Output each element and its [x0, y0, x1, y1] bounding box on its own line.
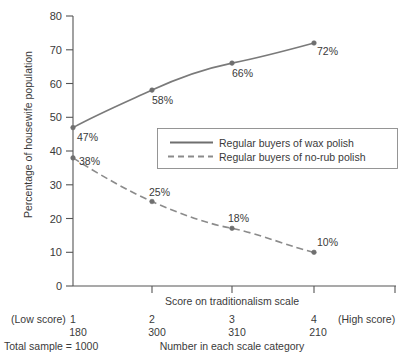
data-point-norub-3: [230, 226, 235, 231]
x-category-4: 4: [311, 313, 317, 325]
x-axis-title: Score on traditionalism scale: [165, 295, 299, 307]
y-tick-label-70: 70: [50, 44, 62, 56]
y-tick-label-80: 80: [50, 10, 62, 22]
category-count-1: 180: [69, 326, 87, 338]
category-count-2: 300: [148, 326, 166, 338]
series-no-rub-polish-line: [73, 158, 314, 252]
legend-label-no-rub-polish: Regular buyers of no-rub polish: [219, 151, 366, 163]
data-label-wax-2: 58%: [152, 94, 173, 106]
counts-caption: Number in each scale category: [160, 340, 305, 352]
x-category-2: 2: [149, 313, 155, 325]
series-wax-polish-line: [73, 43, 314, 128]
y-axis-ticks: [66, 16, 73, 286]
line-chart: 80 70 60 50 40 30 20 10 0 Percentage of …: [0, 0, 408, 353]
y-tick-label-60: 60: [50, 78, 62, 90]
data-label-wax-3: 66%: [232, 67, 253, 79]
legend-label-wax-polish: Regular buyers of wax polish: [219, 137, 354, 149]
category-count-3: 310: [228, 326, 246, 338]
data-label-wax-4: 72%: [317, 45, 338, 57]
x-category-3: 3: [229, 313, 235, 325]
data-label-norub-1: 38%: [79, 155, 100, 167]
data-label-wax-1: 47%: [77, 131, 98, 143]
chart-legend: Regular buyers of wax polish Regular buy…: [158, 129, 398, 169]
data-point-wax-3: [230, 61, 235, 66]
total-sample-label: Total sample = 1000: [4, 340, 98, 352]
chart-container: 80 70 60 50 40 30 20 10 0 Percentage of …: [0, 0, 408, 353]
y-tick-label-50: 50: [50, 111, 62, 123]
data-point-norub-1: [71, 156, 76, 161]
low-score-label: (Low score): [11, 313, 66, 325]
data-point-wax-2: [150, 88, 155, 93]
y-tick-label-30: 30: [50, 179, 62, 191]
data-point-norub-2: [150, 199, 155, 204]
y-tick-label-10: 10: [50, 246, 62, 258]
legend-box: [158, 129, 398, 169]
data-label-norub-2: 25%: [149, 186, 170, 198]
data-label-norub-4: 10%: [317, 236, 338, 248]
data-point-wax-4: [312, 41, 317, 46]
y-tick-label-20: 20: [50, 213, 62, 225]
y-tick-label-40: 40: [50, 145, 62, 157]
data-label-norub-3: 18%: [228, 212, 249, 224]
x-axis-ticks: [152, 286, 395, 293]
category-count-4: 210: [309, 326, 327, 338]
high-score-label: (High score): [338, 313, 395, 325]
y-tick-label-0: 0: [56, 280, 62, 292]
data-point-norub-4: [312, 250, 317, 255]
x-category-1: 1: [70, 313, 76, 325]
y-axis-title: Percentage of housewife population: [22, 51, 34, 218]
data-point-wax-1: [71, 125, 76, 130]
